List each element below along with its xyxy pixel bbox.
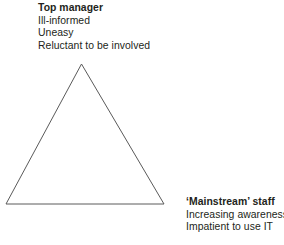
annotation-mainstream-staff-title: ‘Mainstream’ staff	[186, 196, 284, 209]
annotation-top-manager-line-2: Uneasy	[38, 27, 150, 40]
annotation-top-manager-title: Top manager	[38, 2, 150, 15]
annotation-top-manager: Top manager Ill-informed Uneasy Reluctan…	[38, 2, 150, 52]
annotation-top-manager-line-3: Reluctant to be involved	[38, 40, 150, 53]
annotation-mainstream-staff-line-2: Impatient to use IT	[186, 221, 284, 234]
annotation-mainstream-staff: ‘Mainstream’ staff Increasing awareness …	[186, 196, 284, 234]
triangle-outline	[6, 64, 164, 204]
annotation-top-manager-line-1: Ill-informed	[38, 15, 150, 28]
annotation-mainstream-staff-line-1: Increasing awareness	[186, 209, 284, 222]
diagram-canvas: Top manager Ill-informed Uneasy Reluctan…	[0, 0, 284, 245]
